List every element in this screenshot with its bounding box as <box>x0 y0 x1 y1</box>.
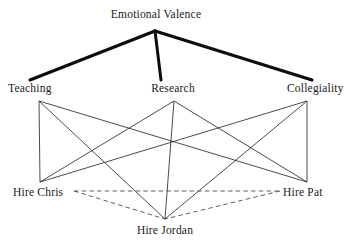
diagram-canvas: Emotional Valence Teaching Research Coll… <box>0 0 346 247</box>
edge-research-hire-jordan <box>165 101 174 219</box>
diagram-edges-layer <box>0 0 346 247</box>
node-label-teaching: Teaching <box>8 82 52 95</box>
edge-valence-research <box>155 31 161 80</box>
edge-teaching-hire-jordan <box>39 101 165 219</box>
edge-hire-chris-hire-jordan <box>74 191 165 219</box>
node-label-emotional-valence: Emotional Valence <box>111 8 201 21</box>
node-label-research: Research <box>151 82 195 95</box>
node-label-hire-pat: Hire Pat <box>283 186 323 199</box>
edge-valence-teaching <box>30 31 155 80</box>
thick-edge-group <box>30 31 312 80</box>
node-label-hire-jordan: Hire Jordan <box>137 224 193 237</box>
edge-research-hire-chris <box>40 101 174 182</box>
thin-edge-group <box>39 101 307 219</box>
edge-collegiality-hire-jordan <box>165 101 307 219</box>
node-label-hire-chris: Hire Chris <box>13 186 63 199</box>
node-label-collegiality: Collegiality <box>287 82 344 95</box>
edge-research-hire-pat <box>174 101 307 182</box>
dashed-edge-group <box>74 191 280 219</box>
edge-valence-collegiality <box>155 31 312 80</box>
edge-teaching-hire-chris <box>39 101 40 182</box>
